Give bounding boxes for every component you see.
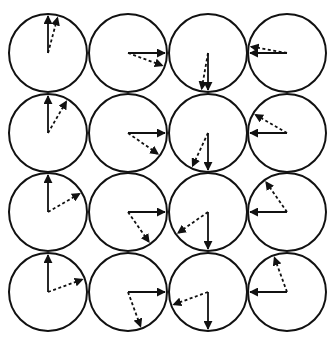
- dashed-arrow: [202, 53, 208, 89]
- cell-r1-c3: [169, 14, 247, 92]
- dashed-arrow: [48, 17, 58, 53]
- cell-r4-c4: [248, 253, 326, 331]
- dashed-arrow: [128, 212, 149, 242]
- cell-r4-c1: [9, 253, 87, 331]
- cell-r3-c1: [9, 173, 87, 251]
- dashed-arrow: [266, 182, 287, 212]
- cell-r2-c4: [248, 94, 326, 172]
- cell-r1-c4: [248, 14, 326, 92]
- dashed-arrow: [255, 115, 287, 134]
- cells-group: [9, 14, 326, 331]
- cell-r4-c2: [89, 253, 167, 331]
- dashed-arrow: [178, 212, 208, 233]
- cell-r4-c3: [169, 253, 247, 331]
- dashed-arrow: [128, 53, 163, 66]
- cell-r1-c1: [9, 14, 87, 92]
- cell-r2-c2: [89, 94, 167, 172]
- dashed-arrow: [128, 292, 141, 327]
- cell-r2-c3: [169, 94, 247, 172]
- dashed-arrow: [173, 292, 208, 305]
- dashed-arrow: [251, 47, 287, 53]
- dashed-arrow: [274, 257, 287, 292]
- dashed-arrow: [48, 101, 67, 133]
- dashed-arrow: [48, 279, 83, 292]
- dashed-arrow: [128, 133, 158, 154]
- dashed-arrow: [192, 133, 208, 167]
- cell-r2-c1: [9, 94, 87, 172]
- dashed-arrow: [48, 194, 80, 213]
- cell-r3-c4: [248, 173, 326, 251]
- phasor-grid-diagram: [0, 0, 336, 338]
- cell-r3-c3: [169, 173, 247, 251]
- cell-r3-c2: [89, 173, 167, 251]
- cell-r1-c2: [89, 14, 167, 92]
